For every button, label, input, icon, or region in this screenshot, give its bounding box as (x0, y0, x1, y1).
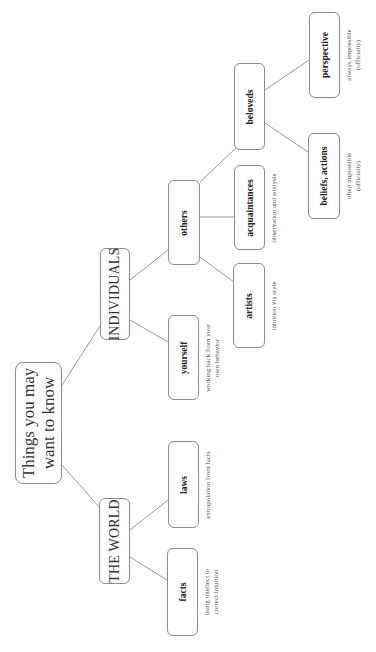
note-facts: using intellect to correct intuition (200, 548, 224, 636)
node-acquaintances-label: acquaintances (244, 179, 255, 237)
note-artists-text: intuition via style (270, 281, 279, 330)
note-perspective-text: always impossible (officially) (345, 29, 363, 81)
category-the-world-label: THE WORLD (106, 499, 122, 583)
note-laws-text: extrapolation from facts (204, 451, 213, 518)
node-beliefs-actions: beliefs, actions (308, 133, 340, 219)
category-the-world: THE WORLD (99, 498, 130, 584)
category-individuals-label: INDIVIDUALS (107, 247, 123, 340)
node-others: others (168, 180, 200, 265)
node-perspective-label: perspective (319, 32, 330, 78)
category-individuals: INDIVIDUALS (100, 248, 130, 340)
node-beloveds: beloveds (234, 63, 265, 150)
node-beloveds-label: beloveds (244, 89, 255, 124)
note-perspective: always impossible (officially) (342, 12, 366, 98)
node-artists-label: artists (244, 293, 255, 318)
note-acquaintances-text: observation and analysis (270, 173, 279, 242)
note-facts-text: using intellect to correct intuition (203, 569, 221, 616)
node-artists: artists (233, 263, 265, 348)
node-others-label: others (179, 210, 190, 235)
node-beliefs-actions-label: beliefs, actions (319, 146, 330, 205)
note-beliefs-actions-text: often impossible (officially) (345, 153, 363, 199)
note-yourself-text: working back from your own behavior (204, 323, 222, 391)
node-facts-label: facts (177, 583, 188, 602)
note-artists: intuition via style (267, 263, 281, 348)
node-acquaintances: acquaintances (234, 165, 265, 250)
node-yourself: yourself (168, 315, 199, 400)
note-acquaintances: observation and analysis (267, 165, 281, 250)
note-beliefs-actions: often impossible (officially) (342, 133, 366, 219)
node-laws-label: laws (178, 476, 189, 494)
root-node: Things you may want to know (15, 362, 62, 484)
root-label: Things you may want to know (19, 368, 58, 479)
node-laws: laws (168, 441, 199, 528)
note-laws: extrapolation from facts (201, 441, 215, 528)
node-facts: facts (167, 548, 198, 636)
node-perspective: perspective (309, 12, 340, 98)
node-yourself-label: yourself (178, 341, 189, 374)
note-yourself: working back from your own behavior (201, 315, 225, 400)
